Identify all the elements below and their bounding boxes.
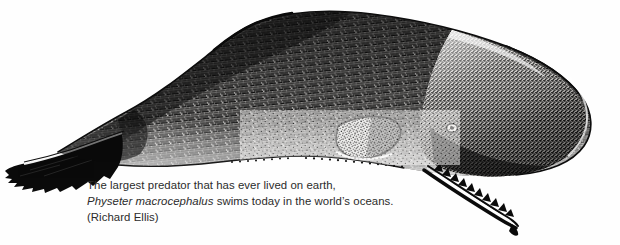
- species-name: Physeter macrocephalus: [87, 195, 213, 207]
- caption-credit: (Richard Ellis): [87, 209, 507, 225]
- caption-line-2-rest: swims today in the world’s oceans.: [213, 195, 393, 207]
- caption-line-1: The largest predator that has ever lived…: [87, 177, 507, 193]
- whale-figure: The largest predator that has ever lived…: [0, 0, 620, 245]
- caption-line-2: Physeter macrocephalus swims today in th…: [87, 193, 507, 209]
- figure-caption: The largest predator that has ever lived…: [87, 177, 507, 226]
- flank-grain: [240, 110, 460, 165]
